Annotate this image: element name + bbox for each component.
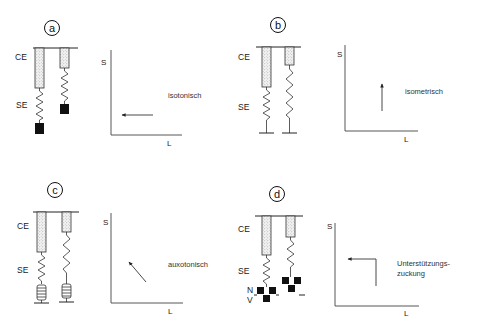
x-axis-label: L bbox=[404, 309, 409, 318]
muscle-model-c: CE SE bbox=[17, 212, 79, 303]
se-label: SE bbox=[238, 102, 250, 112]
panel-a: a CE SE S L isotonisch bbox=[15, 21, 201, 149]
contractile-element-left bbox=[262, 216, 271, 255]
muscle-contraction-diagram: a CE SE S L isotonisch b CE bbox=[0, 0, 489, 327]
mode-label-line1: Unterstützungs- bbox=[397, 259, 450, 268]
mode-label: auxotonisch bbox=[168, 260, 208, 269]
series-elastic-spring-left bbox=[36, 88, 43, 123]
mode-label: isometrisch bbox=[405, 87, 443, 96]
panel-letter-d: d bbox=[270, 187, 285, 202]
weights-right bbox=[282, 277, 305, 295]
ce-label: CE bbox=[15, 52, 27, 62]
se-label: SE bbox=[238, 266, 250, 276]
y-axis-label: S bbox=[337, 50, 342, 59]
y-axis-label: S bbox=[327, 222, 332, 231]
panel-c: c CE SE bbox=[17, 183, 208, 317]
v-label: V bbox=[247, 295, 253, 305]
x-axis-label: L bbox=[168, 307, 173, 316]
y-axis-label: S bbox=[103, 218, 108, 227]
panel-letter-a: a bbox=[45, 21, 60, 36]
muscle-model-b: CE SE bbox=[238, 47, 301, 133]
ce-label: CE bbox=[238, 52, 250, 62]
y-axis-label: S bbox=[101, 58, 106, 67]
series-elastic-spring-left bbox=[263, 255, 270, 287]
muscle-model-d: CE SE N V bbox=[238, 216, 305, 305]
contractile-element-left bbox=[35, 48, 44, 88]
ce-label: CE bbox=[238, 224, 250, 234]
arrow-up-left-icon bbox=[129, 262, 146, 282]
se-label: SE bbox=[17, 265, 29, 275]
graph-b: S L isometrisch bbox=[337, 45, 443, 144]
weight-left bbox=[35, 123, 44, 134]
panel-letter-c: c bbox=[48, 183, 63, 198]
se-label: SE bbox=[16, 100, 28, 110]
muscle-model-a: CE SE bbox=[15, 48, 78, 134]
contractile-element-right bbox=[62, 212, 71, 232]
graph-a: S L isotonisch bbox=[101, 50, 201, 148]
contractile-element-right bbox=[285, 47, 294, 65]
series-elastic-spring-right bbox=[287, 237, 294, 277]
series-elastic-spring-right bbox=[63, 232, 70, 284]
mode-label: isotonisch bbox=[168, 91, 201, 100]
weights-left bbox=[257, 287, 279, 302]
panel-d: d CE SE N V bbox=[238, 187, 450, 319]
contractile-element-right bbox=[60, 48, 69, 68]
mode-label-line2: zuckung bbox=[397, 269, 425, 278]
ce-label: CE bbox=[17, 221, 29, 231]
svg-text:a: a bbox=[49, 22, 56, 34]
graph-d: S L Unterstützungs- zuckung bbox=[327, 222, 450, 318]
x-axis-label: L bbox=[167, 139, 172, 148]
contractile-element-left bbox=[37, 212, 46, 252]
x-axis-label: L bbox=[404, 135, 409, 144]
coil-spring-left bbox=[34, 285, 49, 303]
series-elastic-spring-left bbox=[38, 252, 45, 284]
contractile-element-right bbox=[286, 216, 295, 237]
panel-letter-b: b bbox=[271, 18, 286, 33]
graph-c: S L auxotonisch bbox=[103, 213, 208, 316]
svg-text:c: c bbox=[52, 184, 58, 196]
n-label: N bbox=[247, 285, 253, 295]
svg-text:d: d bbox=[274, 188, 280, 200]
svg-text:b: b bbox=[275, 19, 281, 31]
panel-b: b CE SE S L isometrisch bbox=[238, 18, 443, 145]
contractile-element-left bbox=[262, 47, 271, 87]
weight-right bbox=[60, 104, 69, 114]
coil-spring-right bbox=[59, 284, 74, 302]
series-elastic-spring-right bbox=[61, 68, 68, 104]
series-elastic-spring-left bbox=[263, 87, 270, 133]
series-elastic-spring-right bbox=[286, 65, 293, 133]
